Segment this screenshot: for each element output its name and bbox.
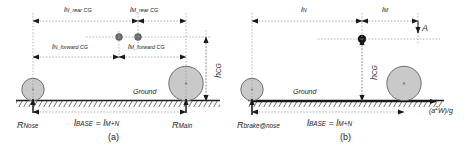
label-l-base-b: lBASE = lM+N xyxy=(307,119,352,128)
label-l-m-forward-cg-sub: M_forward CG xyxy=(130,44,165,50)
label-l-m-rear-cg-sub: M_rear CG xyxy=(132,7,159,13)
label-l-n: lN xyxy=(301,6,307,14)
label-l-base-a-sub: BASE xyxy=(76,120,93,127)
label-l-base-b-rhs-sub: M+N xyxy=(338,120,352,127)
label-h-cg-a: hCG xyxy=(214,63,223,78)
caption-panel-a: (a) xyxy=(108,133,119,142)
label-r-main-sub: Main xyxy=(179,122,193,129)
label-r-main: RMain xyxy=(172,121,192,130)
label-l-m-sub: M xyxy=(384,7,389,13)
label-r-nose: RNose xyxy=(17,121,38,130)
main-wheel-b xyxy=(387,66,421,100)
diagram-canvas xyxy=(0,0,471,146)
label-h-cg-b: hCG xyxy=(370,65,379,80)
label-l-n-forward-cg: lN_forward CG xyxy=(52,43,88,50)
ground-hatch-a xyxy=(16,101,220,108)
label-h-cg-a-sub: CG xyxy=(215,63,222,73)
label-l-m-rear-cg: lM_rear CG xyxy=(130,6,158,13)
label-h-cg-b-sub: CG xyxy=(371,65,378,75)
figure-root: lN_rear CG lM_rear CG lN_forward CG lM_f… xyxy=(0,0,471,146)
caption-panel-b: (b) xyxy=(340,133,351,142)
label-l-n-sub: N xyxy=(303,7,307,13)
label-l-m-forward-cg: lM_forward CG xyxy=(128,43,165,50)
label-l-base-a: lBASE = lM+N xyxy=(74,119,119,128)
label-ground-b: Ground xyxy=(293,88,316,95)
label-l-n-rear-cg-sub: N_rear CG xyxy=(66,7,92,13)
panel-b-artwork xyxy=(241,13,444,115)
label-inertia-force-tail: W)/g xyxy=(438,107,453,114)
label-l-base-a-rhs-sub: M+N xyxy=(105,120,119,127)
label-ground-a: Ground xyxy=(133,88,156,95)
label-l-base-b-sub: BASE xyxy=(309,120,326,127)
panel-a-artwork xyxy=(16,13,220,113)
label-r-brake-nose-sub: brake@nose xyxy=(244,122,280,129)
label-r-brake-nose: Rbrake@nose xyxy=(237,121,280,130)
label-r-nose-sub: Nose xyxy=(24,122,39,129)
label-l-m: lM xyxy=(382,6,388,14)
label-l-n-rear-cg: lN_rear CG xyxy=(64,6,92,13)
label-inertia-force: (a2W)/g xyxy=(429,106,453,114)
label-l-n-forward-cg-sub: N_forward CG xyxy=(54,44,88,50)
label-point-a: A xyxy=(422,24,428,33)
